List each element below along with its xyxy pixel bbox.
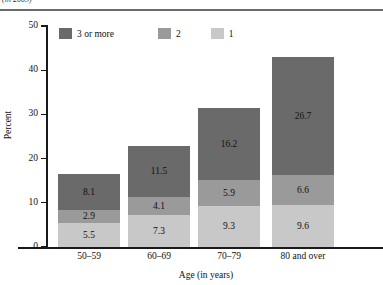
bar-group-80-and-over[interactable]: 9.66.626.7 — [272, 26, 334, 247]
y-tick-label-wrap-30: 30 — [14, 109, 38, 119]
y-tick-label-10: 10 — [16, 198, 38, 208]
y-tick-label-20: 20 — [16, 154, 38, 164]
y-tick-label-wrap-10: 10 — [14, 198, 38, 208]
bar-segment[interactable]: 2.9 — [58, 210, 120, 223]
bar-segment[interactable]: 5.5 — [58, 223, 120, 247]
bar-value-label: 4.1 — [153, 201, 165, 211]
bar-group-60–69[interactable]: 7.34.111.5 — [128, 26, 190, 247]
header-divider-rule — [0, 9, 383, 11]
y-axis-title: Percent — [3, 95, 13, 155]
bar-segment[interactable]: 9.6 — [272, 205, 334, 247]
plot-area: 5.52.98.17.34.111.59.35.916.29.66.626.7 — [47, 26, 365, 247]
y-tick-label-50: 50 — [16, 21, 38, 31]
x-axis-line — [18, 247, 383, 249]
y-tick-label-wrap-50: 50 — [14, 21, 38, 31]
bar-segment[interactable]: 7.3 — [128, 215, 190, 247]
bar-segment[interactable]: 9.3 — [198, 206, 260, 247]
bar-segment[interactable]: 5.9 — [198, 180, 260, 206]
bar-value-label: 16.2 — [221, 139, 238, 149]
bar-value-label: 9.3 — [223, 221, 235, 231]
bar-segment[interactable]: 11.5 — [128, 146, 190, 197]
bar-value-label: 11.5 — [151, 166, 167, 176]
y-tick-label-0: 0 — [16, 242, 38, 252]
y-tick-label-30: 30 — [16, 109, 38, 119]
y-tick-label-wrap-20: 20 — [14, 154, 38, 164]
bar-value-label: 8.1 — [83, 187, 95, 197]
x-axis-title: Age (in years) — [47, 270, 365, 280]
bar-segment[interactable]: 6.6 — [272, 175, 334, 204]
bar-value-label: 6.6 — [297, 185, 309, 195]
x-tick-label-80-and-over: 80 and over — [258, 251, 348, 261]
bar-segment[interactable]: 16.2 — [198, 108, 260, 180]
clipped-header-text: (in 2003) — [2, 0, 32, 4]
bar-group-70–79[interactable]: 9.35.916.2 — [198, 26, 260, 247]
bar-segment[interactable]: 4.1 — [128, 197, 190, 215]
bar-value-label: 9.6 — [297, 221, 309, 231]
y-tick-label-40: 40 — [16, 65, 38, 75]
bar-value-label: 26.7 — [295, 111, 312, 121]
bar-group-50–59[interactable]: 5.52.98.1 — [58, 26, 120, 247]
bar-value-label: 5.5 — [83, 230, 95, 240]
bar-value-label: 5.9 — [223, 188, 235, 198]
bar-segment[interactable]: 26.7 — [272, 57, 334, 175]
stacked-bar-chart: 01020304050 Percent Age (in years) 3 or … — [0, 12, 383, 285]
bar-segment[interactable]: 8.1 — [58, 174, 120, 210]
y-tick-label-wrap-40: 40 — [14, 65, 38, 75]
bar-value-label: 7.3 — [153, 226, 165, 236]
bar-value-label: 2.9 — [83, 211, 95, 221]
y-tick-label-wrap-0: 0 — [14, 242, 38, 252]
